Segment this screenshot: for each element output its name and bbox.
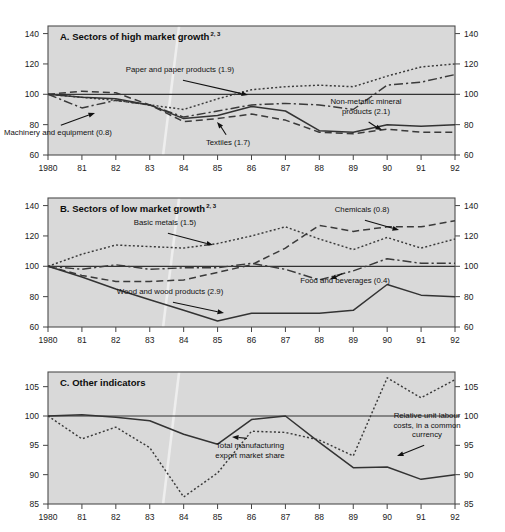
x-axis-label: 87 [281, 512, 291, 522]
series-annotation-label: Chemicals (0.8) [335, 205, 390, 214]
x-axis-label: 82 [111, 512, 121, 522]
x-axis-label: 81 [77, 512, 87, 522]
y-axis-label-left: 140 [25, 201, 39, 211]
y-axis-label-right: 105 [464, 382, 478, 392]
plot-background [48, 372, 455, 504]
x-axis-label: 81 [77, 163, 87, 173]
x-axis-label: 90 [382, 512, 392, 522]
panel-title-c: C. Other indicators [60, 377, 146, 388]
x-axis-label: 89 [349, 163, 359, 173]
x-axis-label: 82 [111, 335, 121, 345]
y-axis-label-left: 120 [25, 59, 39, 69]
series-annotation-label: Machinery and equipment (0.8) [4, 128, 112, 137]
x-axis-label: 92 [450, 335, 460, 345]
y-axis-label-left: 60 [30, 150, 40, 160]
y-axis-label-right: 120 [464, 231, 478, 241]
y-axis-label-left: 90 [30, 470, 40, 480]
x-axis-label: 86 [247, 512, 257, 522]
x-axis-label: 88 [315, 163, 325, 173]
chart-svg-b: 6060808010010012012014014019808182838485… [0, 180, 505, 352]
y-axis-label-left: 140 [25, 29, 39, 39]
x-axis-label: 84 [179, 163, 189, 173]
y-axis-label-left: 120 [25, 231, 39, 241]
x-axis-label: 83 [145, 163, 155, 173]
x-axis-label: 81 [77, 335, 87, 345]
y-axis-label-right: 140 [464, 201, 478, 211]
x-axis-label: 85 [213, 512, 223, 522]
y-axis-label-right: 80 [464, 120, 474, 130]
plot-background [48, 198, 455, 327]
x-axis-label: 85 [213, 335, 223, 345]
y-axis-label-right: 100 [464, 411, 478, 421]
x-axis-label: 1980 [39, 512, 58, 522]
y-axis-label-right: 90 [464, 470, 474, 480]
series-annotation-label: Textiles (1.7) [206, 138, 251, 147]
chart-panel-b: 6060808010010012012014014019808182838485… [0, 180, 505, 352]
x-axis-label: 92 [450, 512, 460, 522]
x-axis-label: 83 [145, 335, 155, 345]
x-axis-label: 1980 [39, 335, 58, 345]
x-axis-label: 86 [247, 335, 257, 345]
chart-panel-c: 8585909095951001001051051980818283848586… [0, 352, 505, 532]
panel-title-superscript: 2, 3 [206, 203, 217, 209]
panel-title-superscript: 2, 3 [210, 31, 221, 37]
y-axis-label-right: 60 [464, 150, 474, 160]
y-axis-label-right: 95 [464, 440, 474, 450]
series-annotation-label: Basic metals (1.5) [134, 218, 197, 227]
y-axis-label-left: 100 [25, 89, 39, 99]
y-axis-label-left: 100 [25, 261, 39, 271]
chart-svg-c: 8585909095951001001051051980818283848586… [0, 352, 505, 532]
x-axis-label: 85 [213, 163, 223, 173]
y-axis-label-left: 95 [30, 440, 40, 450]
y-axis-label-right: 85 [464, 499, 474, 509]
x-axis-label: 91 [416, 335, 426, 345]
x-axis-label: 91 [416, 512, 426, 522]
figure-container: 6060808010010012012014014019808182838485… [0, 0, 505, 532]
y-axis-label-right: 140 [464, 29, 478, 39]
x-axis-label: 83 [145, 512, 155, 522]
chart-panel-a: 6060808010010012012014014019808182838485… [0, 0, 505, 180]
x-axis-label: 89 [349, 512, 359, 522]
x-axis-label: 88 [315, 335, 325, 345]
x-axis-label: 87 [281, 163, 291, 173]
y-axis-label-left: 85 [30, 499, 40, 509]
y-axis-label-right: 120 [464, 59, 478, 69]
x-axis-label: 90 [382, 163, 392, 173]
x-axis-label: 92 [450, 163, 460, 173]
y-axis-label-right: 60 [464, 322, 474, 332]
x-axis-label: 1980 [39, 163, 58, 173]
series-annotation-label: Paper and paper products (1.9) [126, 65, 235, 74]
x-axis-label: 82 [111, 163, 121, 173]
panel-title-a: A. Sectors of high market growth [60, 31, 210, 42]
x-axis-label: 86 [247, 163, 257, 173]
x-axis-label: 89 [349, 335, 359, 345]
y-axis-label-left: 105 [25, 382, 39, 392]
chart-svg-a: 6060808010010012012014014019808182838485… [0, 0, 505, 180]
x-axis-label: 87 [281, 335, 291, 345]
y-axis-label-left: 80 [30, 292, 40, 302]
x-axis-label: 88 [315, 512, 325, 522]
series-annotation-label: Total manufacturingexport market share [215, 441, 284, 460]
y-axis-label-right: 80 [464, 292, 474, 302]
y-axis-label-left: 60 [30, 322, 40, 332]
y-axis-label-left: 100 [25, 411, 39, 421]
x-axis-label: 91 [416, 163, 426, 173]
x-axis-label: 84 [179, 335, 189, 345]
x-axis-label: 84 [179, 512, 189, 522]
series-annotation-label: Wood and wood products (2.9) [117, 287, 224, 296]
panel-title-b: B. Sectors of low market growth [60, 203, 205, 214]
y-axis-label-right: 100 [464, 261, 478, 271]
y-axis-label-right: 100 [464, 89, 478, 99]
series-annotation-label: Food and beverages (0.4) [300, 276, 390, 285]
x-axis-label: 90 [382, 335, 392, 345]
